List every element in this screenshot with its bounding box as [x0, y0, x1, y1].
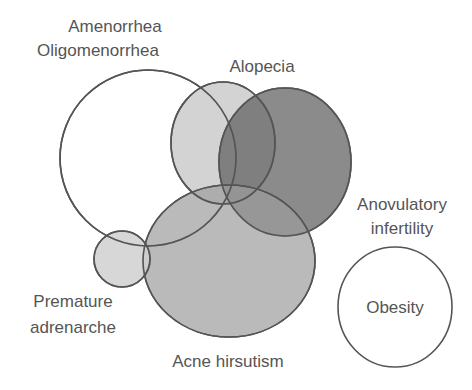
label-anovulatory: Anovulatory: [357, 195, 447, 214]
label-obesity: Obesity: [366, 298, 424, 317]
label-alopecia: Alopecia: [229, 57, 295, 76]
label-premature: Premature: [33, 292, 112, 311]
circle-acne: [143, 185, 315, 337]
label-infertility: infertility: [371, 219, 434, 238]
venn-diagram: Amenorrhea Oligomenorrhea Alopecia Anovu…: [0, 0, 472, 390]
label-adrenarche: adrenarche: [30, 318, 116, 337]
label-amenorrhea: Amenorrhea: [68, 17, 162, 36]
label-oligomenorrhea: Oligomenorrhea: [37, 41, 159, 60]
label-acne-hirsutism: Acne hirsutism: [172, 352, 283, 371]
